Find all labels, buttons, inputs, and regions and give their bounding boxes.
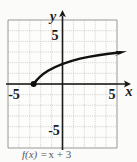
caption-clip-region: f(x) =x + 3: [0, 151, 137, 162]
x-tick-label-negative-five: -5: [8, 87, 20, 102]
y-tick-label-negative-five: -5: [48, 123, 60, 138]
radical-expression: x + 3: [47, 151, 73, 160]
curve-endpoint-dot: [31, 81, 37, 87]
coordinate-plane-svg: y x -5 5 5 -5: [0, 0, 137, 162]
graph-figure: y x -5 5 5 -5 f(x) =x + 3: [0, 0, 137, 162]
y-axis-label: y: [48, 9, 57, 24]
y-tick-label-positive-five: 5: [52, 28, 59, 43]
function-caption: f(x) =x + 3: [22, 151, 73, 160]
x-axis-label: x: [125, 84, 133, 99]
x-tick-label-positive-five: 5: [109, 87, 116, 102]
caption-prefix: f(x) =: [22, 151, 47, 160]
